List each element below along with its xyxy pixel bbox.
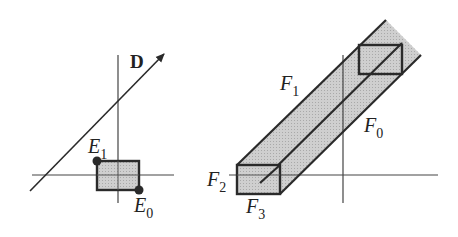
edge-center (260, 43, 402, 183)
label-e0: E0 (133, 194, 153, 221)
label-f3: F3 (245, 195, 265, 222)
direction-label: D (130, 51, 144, 72)
label-f0: F0 (363, 114, 383, 141)
label-f1: F1 (279, 72, 299, 99)
left-panel: D E1 E0 (30, 51, 174, 221)
diagram-canvas: D E1 E0 F1 F0 F2 F3 (0, 0, 458, 237)
right-panel: F1 F0 F2 F3 (206, 20, 438, 222)
label-f2: F2 (206, 168, 226, 195)
